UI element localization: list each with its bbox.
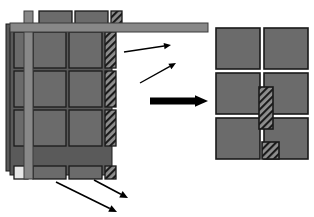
body-cell-r2-c1 <box>33 71 66 107</box>
body-cell-r3-c2 <box>69 110 102 146</box>
result-cell-r1-c1 <box>216 28 260 69</box>
callout-arrow-bottom-right <box>94 180 128 198</box>
bottom-cell-c3 <box>105 166 116 179</box>
bottom-cell-c2 <box>69 166 102 179</box>
bottom-cell-c1 <box>33 166 66 179</box>
callout-arrow-bottom-right-shaft <box>94 180 121 194</box>
body-cell-r1-c1 <box>33 32 66 68</box>
body-cell-r2-c3 <box>105 71 116 107</box>
result-cell-r2-c1 <box>216 73 260 114</box>
result-cell-r3-c1 <box>216 118 260 159</box>
body-cell-r3-c3 <box>105 110 116 146</box>
right-assembly <box>216 28 308 159</box>
callout-arrow-upper <box>124 43 171 52</box>
small-hatched-insert <box>262 142 279 159</box>
callout-arrow-bottom-left-shaft <box>56 182 110 208</box>
tall-hatched-insert <box>259 87 273 129</box>
callout-arrow-upper-head <box>164 43 171 49</box>
result-cell-r1-c2 <box>264 28 308 69</box>
vertical-cross-band <box>24 11 33 179</box>
callout-arrow-lower-shaft <box>140 66 170 83</box>
body-cell-r1-c2 <box>69 32 102 68</box>
callout-arrow-upper-shaft <box>124 46 164 52</box>
diagram-svg <box>0 0 314 217</box>
body-cell-r2-c2 <box>69 71 102 107</box>
horizontal-cross-band <box>10 23 208 32</box>
callout-arrow-lower <box>140 63 176 83</box>
main-transform-arrow-head <box>195 95 208 107</box>
left-assembly <box>6 11 208 179</box>
body-cell-r3-c1 <box>33 110 66 146</box>
diagram-canvas <box>0 0 314 217</box>
body-cell-r1-c3 <box>105 32 116 68</box>
main-transform-arrow <box>150 95 208 107</box>
